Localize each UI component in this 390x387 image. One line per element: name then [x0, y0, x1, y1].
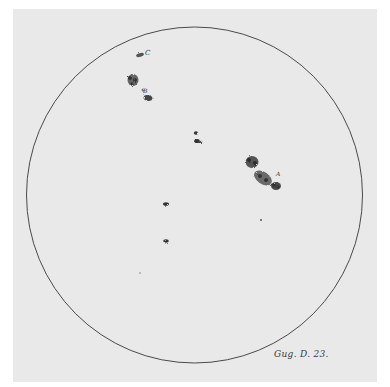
sunspot-lower-1 — [163, 202, 169, 206]
solar-disk-outline — [27, 27, 363, 363]
sunspot-group-center — [194, 131, 203, 143]
label-c: C — [145, 49, 151, 57]
sunspot-dot-1 — [260, 219, 262, 221]
sun-drawing: C B A — [0, 0, 390, 387]
sunspot-group-b — [128, 74, 153, 102]
sunspot-lower-2 — [163, 239, 169, 243]
sunspot-group-c — [136, 52, 145, 58]
label-b: B — [142, 87, 148, 94]
sunspot-dot-2 — [139, 272, 140, 273]
plate-caption: Gug. D. 23. — [274, 349, 329, 359]
label-a: A — [275, 170, 281, 177]
